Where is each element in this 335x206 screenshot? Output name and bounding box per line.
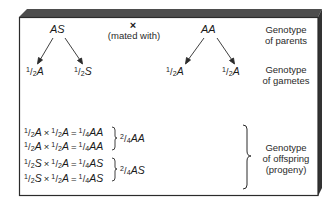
- offspring-equation-4: 1/2S×1/2A=1/4AS: [24, 173, 103, 184]
- parent-left-genotype: AS: [50, 24, 65, 35]
- offspring-equation-1: 1/2A×1/2A=1/4AA: [24, 127, 103, 138]
- offspring-total-aa: 2/4AA: [120, 133, 145, 144]
- parent-right-genotype: AA: [201, 24, 216, 35]
- cross-label: (mated with): [101, 31, 167, 41]
- gamete-right-1: 1/2A: [166, 66, 184, 77]
- offspring-equation-2: 1/2A×1/2A=1/4AA: [24, 141, 103, 152]
- label-genotype-of-parents: Genotypeof parents: [258, 24, 314, 46]
- label-genotype-of-gametes: Genotypeof gametes: [256, 64, 316, 86]
- frame-top-bevel: [19, 9, 322, 17]
- label-genotype-of-offspring: Genotypeof offspring(progeny): [254, 142, 318, 175]
- gamete-left-2: 1/2S: [74, 66, 92, 77]
- offspring-equation-3: 1/2S×1/2A=1/4AS: [24, 158, 103, 169]
- gamete-right-2: 1/2A: [222, 66, 240, 77]
- offspring-total-as: 2/4AS: [120, 165, 145, 176]
- gamete-left-1: 1/2A: [26, 66, 44, 77]
